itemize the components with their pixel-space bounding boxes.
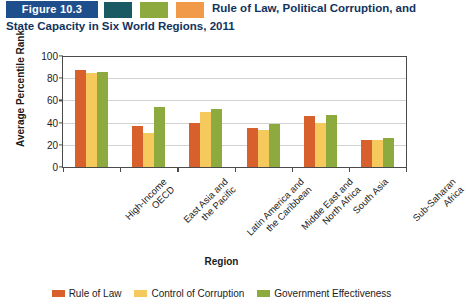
bar [189, 123, 200, 167]
bar [326, 115, 337, 167]
legend-swatch-icon [134, 290, 147, 297]
x-tick-mark [406, 167, 407, 172]
bar [247, 128, 258, 167]
bar-group [189, 56, 222, 167]
x-tick-mark [292, 167, 293, 172]
bar [269, 124, 280, 167]
y-tick-label: 0 [52, 162, 58, 173]
legend-item: Rule of Law [52, 288, 122, 299]
figure-header: Figure 10.3 Rule of Law, Political Corru… [0, 0, 443, 40]
y-tick-label: 20 [47, 139, 58, 150]
bar [315, 123, 326, 167]
y-tick-label: 80 [47, 73, 58, 84]
legend-label: Control of Corruption [151, 288, 244, 299]
bar [304, 116, 315, 167]
x-tick-mark [120, 167, 121, 172]
bar [200, 112, 211, 168]
bar [372, 140, 383, 167]
x-axis-title: Region [0, 256, 443, 267]
bar [132, 126, 143, 167]
legend-label: Government Effectiveness [274, 288, 391, 299]
bar-group [361, 56, 394, 167]
x-tick-mark [177, 167, 178, 172]
bar-chart: Average Percentile Rank 020406080100 Hig… [0, 38, 443, 263]
y-tick-label: 40 [47, 117, 58, 128]
legend-item: Control of Corruption [134, 288, 244, 299]
bar-group [247, 56, 280, 167]
bar [154, 107, 165, 167]
x-category-label: East Asia andthe Pacific [181, 176, 238, 233]
chart-legend: Rule of LawControl of CorruptionGovernme… [0, 288, 443, 299]
bar-groups [63, 56, 406, 167]
x-tick-mark [349, 167, 350, 172]
bar [383, 138, 394, 167]
bar [86, 73, 97, 167]
y-axis-title: Average Percentile Rank [15, 24, 26, 154]
bar-group [75, 56, 108, 167]
bar [211, 109, 222, 167]
legend-item: Government Effectiveness [257, 288, 391, 299]
bar-group [304, 56, 337, 167]
bar [97, 72, 108, 167]
bar [258, 130, 269, 167]
y-tick-label: 100 [41, 51, 58, 62]
legend-swatch-icon [52, 290, 65, 297]
x-category-label: High-IncomeOECD [123, 176, 177, 230]
x-tick-mark [235, 167, 236, 172]
plot-area: 020406080100 [62, 56, 407, 168]
x-category-label: Sub-SaharanAfrica [411, 176, 466, 231]
x-tick-mark [63, 167, 64, 172]
legend-label: Rule of Law [69, 288, 122, 299]
bar-group [132, 56, 165, 167]
bar [143, 133, 154, 167]
bar [361, 140, 372, 167]
x-category-label: Latin America andthe Caribbean [244, 176, 313, 245]
y-tick-label: 60 [47, 95, 58, 106]
legend-swatch-icon [257, 290, 270, 297]
bar [75, 70, 86, 167]
figure-title: Rule of Law, Political Corruption, and S… [6, 0, 443, 35]
